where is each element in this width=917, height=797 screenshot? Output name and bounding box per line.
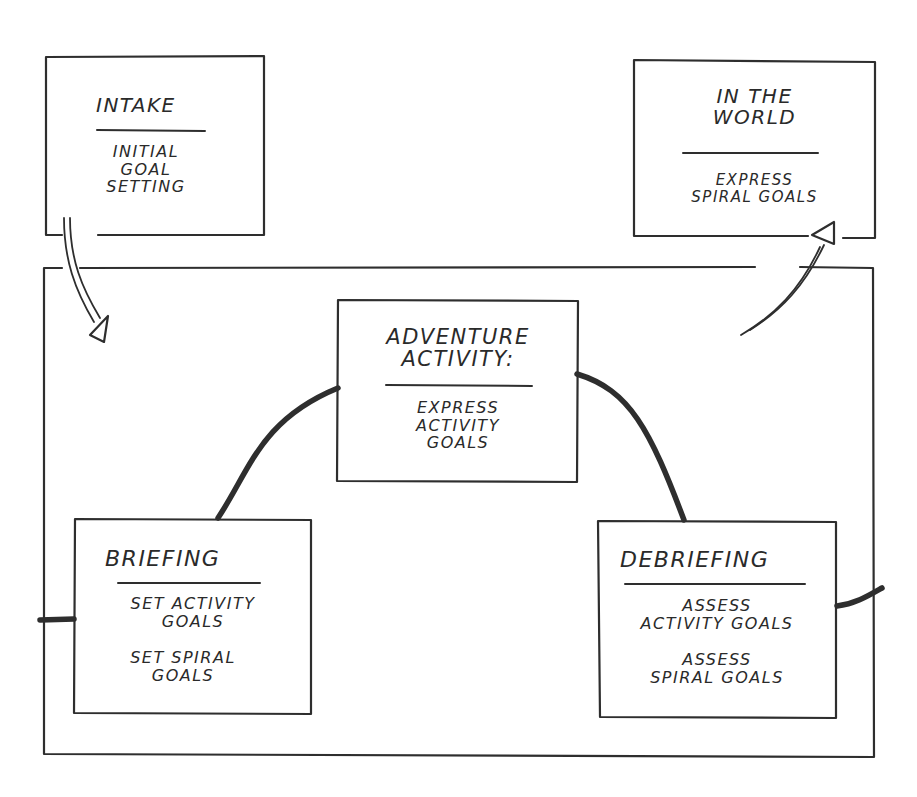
debriefing-box: Debriefing Assess Activity Goals Assess … [598,521,836,717]
briefing-group-1-line-2: Goals [95,613,291,631]
debriefing-group-2-line-1: Assess [598,651,836,669]
briefing-group-2-line-2: Goals [85,667,281,685]
in-the-world-line-1: Express [634,172,875,189]
in-the-world-line-2: Spiral Goals [634,189,875,206]
debriefing-group-1-line-2: Activity Goals [598,615,836,633]
in-the-world-box: In the World Express Spiral Goals [634,60,875,237]
intake-line-2: Goal [86,161,206,179]
connector-debriefing-to-frame [837,588,882,606]
in-the-world-title-line-2: World [634,107,875,128]
intake-line-3: Setting [86,178,206,196]
adventure-activity-box: Adventure Activity: Express Activity Goa… [338,300,578,481]
connector-briefing-to-activity [218,388,338,518]
intake-title: Intake [96,95,176,116]
briefing-title: Briefing [105,547,220,570]
debriefing-group-2-line-2: Spiral Goals [598,669,836,687]
adventure-activity-line-1: Express [338,399,578,417]
debriefing-title: Debriefing [620,548,769,571]
connector-frame-to-briefing [40,619,74,620]
world-arrow-shaft-b [750,245,824,330]
in-the-world-title: In the World [634,86,875,128]
briefing-group-1: Set Activity Goals [95,595,291,630]
intake-line-1: Initial [86,143,206,161]
adventure-activity-line-3: Goals [338,434,578,452]
in-the-world-title-line-1: In the [634,86,875,107]
briefing-group-2: Set Spiral Goals [85,649,281,684]
adventure-activity-title-line-2: Activity: [338,348,578,370]
debriefing-group-2: Assess Spiral Goals [598,651,836,686]
debriefing-group-1-line-1: Assess [598,597,836,615]
briefing-box: Briefing Set Activity Goals Set Spiral G… [75,519,311,713]
adventure-activity-title: Adventure Activity: [338,326,578,370]
briefing-group-1-line-1: Set Activity [95,595,291,613]
in-the-world-body: Express Spiral Goals [634,172,875,205]
intake-box: Intake Initial Goal Setting [46,57,264,235]
adventure-activity-title-line-1: Adventure [338,326,578,348]
debriefing-group-1: Assess Activity Goals [598,597,836,632]
briefing-group-2-line-1: Set Spiral [85,649,281,667]
adventure-activity-line-2: Activity [338,417,578,435]
world-arrow-shaft-a [741,247,820,335]
adventure-activity-body: Express Activity Goals [338,399,578,452]
intake-body: Initial Goal Setting [86,143,206,196]
connector-activity-to-debriefing [577,374,684,520]
